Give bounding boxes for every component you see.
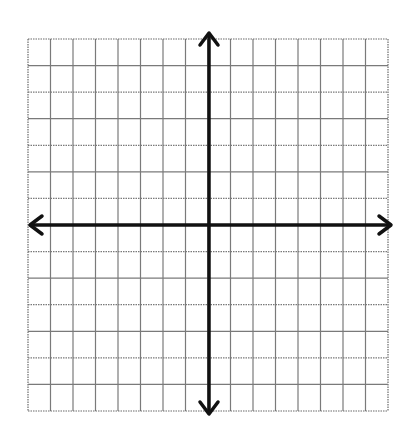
axes	[30, 33, 391, 414]
coordinate-plane	[0, 0, 407, 433]
